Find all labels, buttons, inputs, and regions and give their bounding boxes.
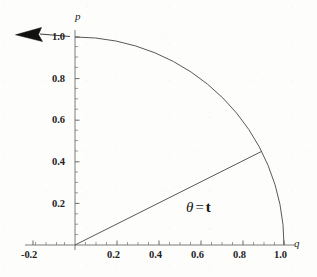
unit-circle-arc: [75, 37, 284, 245]
y-tick-label-0.4: 0.4: [52, 156, 65, 167]
y-axis-label: p: [75, 10, 81, 22]
plot-canvas: [0, 0, 317, 277]
radius-line: [75, 151, 262, 245]
x-tick-label-0.6: 0.6: [191, 249, 204, 260]
figure-quarter-unit-circle: -0.2 0.2 0.4 0.6 0.8 1.0 0.2 0.4 0.6 0.8…: [0, 0, 317, 277]
x-tick-label-1.0: 1.0: [274, 249, 287, 260]
y-major-ticks: [75, 37, 80, 203]
y-tick-label-0.2: 0.2: [52, 198, 65, 209]
x-tick-label-0.8: 0.8: [233, 249, 246, 260]
x-tick-label-0.2: 0.2: [107, 249, 120, 260]
direction-arrow-head: [16, 28, 43, 42]
y-tick-label-1.0: 1.0: [52, 31, 65, 42]
y-tick-label-0.8: 0.8: [52, 73, 65, 84]
theta-annotation: θ=t: [186, 199, 211, 216]
y-tick-label-0.6: 0.6: [52, 114, 65, 125]
x-axis-label: q: [294, 237, 300, 249]
equals-sign: =: [193, 199, 205, 215]
x-tick-label-0.4: 0.4: [149, 249, 162, 260]
parameter-t: t: [206, 199, 211, 215]
x-tick-label--0.2: -0.2: [21, 249, 37, 260]
x-major-ticks: [33, 241, 284, 246]
